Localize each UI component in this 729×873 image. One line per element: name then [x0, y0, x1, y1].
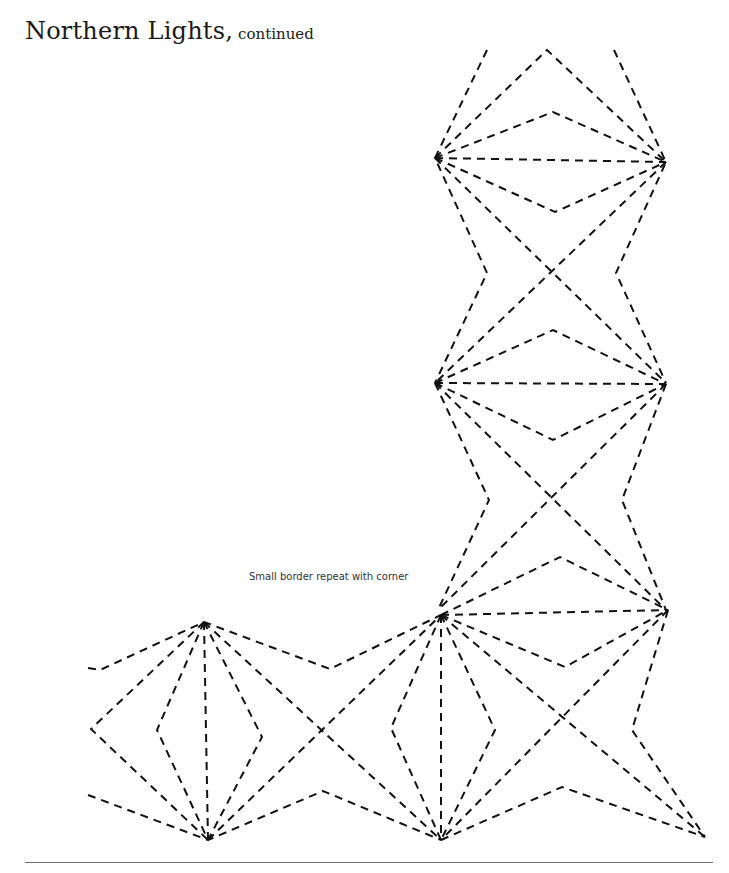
corner-unit [441, 557, 705, 840]
horizontal-unit-1 [88, 615, 441, 840]
quilting-border-pattern [0, 0, 729, 873]
vertical-unit-1 [435, 50, 666, 383]
footer-divider [25, 862, 713, 863]
vertical-unit-2 [435, 330, 666, 610]
figure-caption: Small border repeat with corner [249, 571, 408, 582]
horizontal-unit-2 [391, 615, 495, 840]
